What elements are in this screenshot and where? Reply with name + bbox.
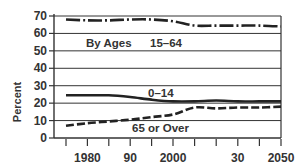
y-tick-label: 40 — [34, 61, 48, 75]
x-tick-label: 1980 — [74, 151, 101, 165]
y-tick-label: 70 — [34, 9, 48, 23]
annotation-15-64: 15–64 — [150, 37, 183, 49]
y-tick-label: 50 — [34, 44, 48, 58]
y-tick-label: 10 — [34, 114, 48, 128]
annotation-0-14: 0–14 — [148, 87, 174, 99]
population-age-chart: 0102030405060701980902000302050 Percent … — [0, 0, 308, 168]
y-axis-label: Percent — [11, 81, 23, 122]
annotation-by-ages: By Ages — [86, 37, 132, 49]
y-tick-label: 30 — [34, 79, 48, 93]
gridlines — [54, 16, 281, 121]
x-tick-label: 2000 — [160, 151, 187, 165]
series-line-15-64 — [66, 19, 281, 26]
y-tick-label: 60 — [34, 26, 48, 40]
data-series — [66, 19, 281, 125]
y-tick-label: 0 — [40, 131, 47, 145]
x-tick-label: 2050 — [268, 151, 295, 165]
annotation-65-or-over: 65 or Over — [132, 122, 189, 134]
y-tick-label: 20 — [34, 96, 48, 110]
x-tick-label: 90 — [124, 151, 138, 165]
x-tick-label: 30 — [231, 151, 245, 165]
